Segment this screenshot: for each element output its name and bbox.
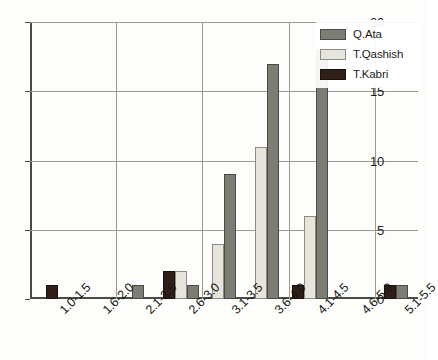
bar-group	[159, 22, 202, 299]
bar-group	[246, 22, 289, 299]
bar	[267, 64, 279, 299]
bar	[224, 174, 236, 299]
legend-item: T.Qashish	[320, 44, 416, 64]
bar-group	[202, 22, 245, 299]
bar	[255, 147, 267, 299]
bar-group	[73, 22, 116, 299]
legend-swatch-icon	[320, 29, 346, 40]
bar	[46, 285, 58, 299]
bar-group	[30, 22, 73, 299]
legend-swatch-icon	[320, 69, 346, 80]
chart-legend: Q.AtaT.QashishT.Kabri	[316, 20, 420, 88]
legend-item: T.Kabri	[320, 64, 416, 84]
legend-label: Q.Ata	[353, 28, 382, 40]
legend-item: Q.Ata	[320, 24, 416, 44]
bar-group	[116, 22, 159, 299]
x-axis-labels: 1.0-1.51.6-2.02.1-2.52.6-3.03.1-3.53.6-4…	[30, 299, 418, 360]
bar	[175, 271, 187, 299]
legend-label: T.Qashish	[353, 48, 403, 60]
bar	[396, 285, 408, 299]
legend-swatch-icon	[320, 49, 346, 60]
legend-label: T.Kabri	[353, 68, 388, 80]
